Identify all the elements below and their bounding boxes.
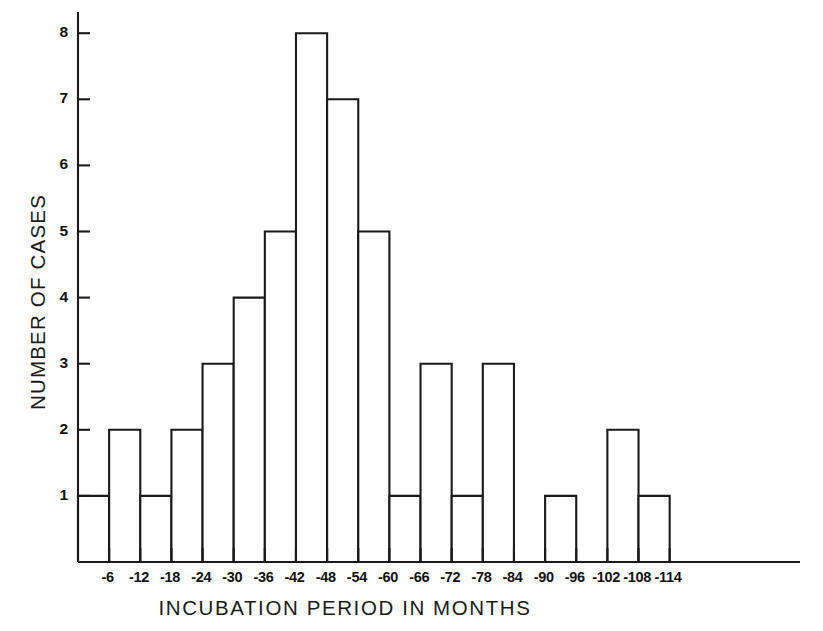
x-axis-tick-label: -12 [129, 569, 149, 585]
histogram-bar [421, 364, 452, 562]
histogram-bar [171, 430, 202, 562]
x-axis-title: INCUBATION PERIOD IN MONTHS [0, 596, 690, 620]
x-axis-tick-label: -18 [160, 569, 180, 585]
x-axis-tick-label: -108 [623, 569, 651, 585]
x-axis-tick-label: -42 [285, 569, 305, 585]
histogram-bar [389, 496, 420, 562]
histogram-bar [639, 496, 670, 562]
histogram-bar [109, 430, 140, 562]
x-axis-tick-label: -84 [503, 569, 523, 585]
histogram-bar [234, 298, 265, 562]
histogram-bar [203, 364, 234, 562]
x-axis-tick-label: -102 [592, 569, 620, 585]
histogram-bar [607, 430, 638, 562]
x-axis-tick-label: -90 [534, 569, 554, 585]
histogram-bar [545, 496, 576, 562]
x-axis-tick-label: -30 [222, 569, 242, 585]
y-axis-title: NUMBER OF CASES [26, 172, 50, 432]
x-axis-tick-label: -36 [253, 569, 273, 585]
x-axis-tick-label: -60 [378, 569, 398, 585]
histogram-bar [327, 99, 358, 562]
x-axis-tick-label: -114 [654, 569, 681, 585]
x-axis-tick-label: -6 [102, 569, 114, 585]
histogram-bar [452, 496, 483, 562]
y-axis-tick-label: 8 [42, 23, 68, 41]
histogram-bar [483, 364, 514, 562]
x-axis-tick-label: -66 [409, 569, 429, 585]
histogram-bar [78, 496, 109, 562]
x-axis-tick-label: -72 [440, 569, 460, 585]
histogram-bar [265, 232, 296, 563]
histogram-figure: 12345678 -6-12-18-24-30-36-42-48-54-60-6… [0, 0, 823, 631]
histogram-bar [358, 232, 389, 563]
x-axis-tick-label: -96 [565, 569, 585, 585]
y-axis-tick-label: 7 [42, 89, 68, 107]
x-axis-tick-label: -54 [347, 569, 367, 585]
x-axis-tick-label: -78 [471, 569, 491, 585]
histogram-bar [140, 496, 171, 562]
histogram-plot [0, 0, 823, 631]
x-axis-tick-label: -48 [316, 569, 336, 585]
y-axis-tick-label: 1 [42, 486, 68, 504]
histogram-bar [296, 33, 327, 562]
x-axis-tick-label: -24 [191, 569, 211, 585]
y-axis-tick-label: 6 [42, 155, 68, 173]
